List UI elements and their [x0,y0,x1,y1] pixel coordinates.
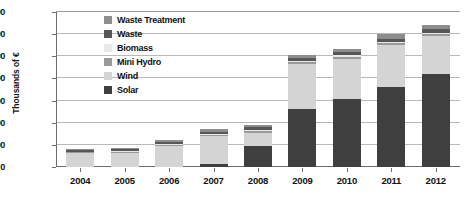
x-axis-tick-mark [436,168,437,172]
x-axis-tick: 2004 [66,169,94,193]
legend-item[interactable]: Biomass [104,42,185,54]
x-axis-tick-label: 2010 [333,175,361,186]
legend-swatch-icon [104,72,112,80]
bar-segment [422,74,450,167]
y-axis-tick-mark [52,167,56,168]
bar-segment [288,109,316,167]
bar-segment [200,164,228,167]
legend-swatch-icon [104,30,112,38]
y-axis-tick-mark [52,34,56,35]
bar-segment [422,36,450,74]
legend-item[interactable]: Solar [104,84,185,96]
legend-swatch-icon [104,86,112,94]
legend-item[interactable]: Waste Treatment [104,14,185,26]
chart-legend: Waste TreatmentWasteBiomassMini HydroWin… [104,14,185,96]
x-axis-tick: 2007 [200,169,228,193]
y-axis-tick-label: 2000000 [0,118,5,128]
bar-segment [333,59,361,100]
x-axis-tick-mark [302,168,303,172]
x-axis-tick: 2005 [111,169,139,193]
y-axis-tick-mark [52,101,56,102]
y-axis-tick-label: 4000000 [0,73,5,83]
bar-segment [377,45,405,87]
x-axis-tick-labels: 200420052006200720082009201020112012 [56,169,460,193]
bar-segment [111,153,139,167]
legend-item-label: Waste [117,30,142,39]
bar-column [200,12,228,167]
bar-segment [155,146,183,167]
bar-column [422,12,450,167]
x-axis-tick-mark [258,168,259,172]
x-axis-tick-label: 2006 [155,175,183,186]
legend-item-label: Mini Hydro [117,58,161,67]
y-axis-tick-mark [52,145,56,146]
legend-item-label: Biomass [117,44,153,53]
bar-segment [244,133,272,146]
y-axis-title: Thousands of € [11,23,21,143]
y-axis-tick-mark [52,123,56,124]
x-axis-tick-label: 2007 [200,175,228,186]
x-axis-tick-label: 2005 [111,175,139,186]
legend-swatch-icon [104,58,112,66]
y-axis-tick-label: 3000000 [0,96,5,106]
bar-segment [200,136,228,164]
bar-segment [333,99,361,167]
x-axis-tick-label: 2012 [422,175,450,186]
x-axis-tick: 2006 [155,169,183,193]
y-axis-tick-label: 5000000 [0,51,5,61]
x-axis-tick-label: 2009 [288,175,316,186]
x-axis-tick-mark [347,168,348,172]
y-axis-tick-label: 0 [0,162,5,172]
legend-item-label: Wind [117,72,138,81]
y-axis-tick-label: 6000000 [0,29,5,39]
x-axis-tick-mark [391,168,392,172]
y-axis-tick-label: 7000000 [0,7,5,17]
x-axis-tick: 2009 [288,169,316,193]
x-axis-tick: 2010 [333,169,361,193]
y-axis-tick-mark [52,12,56,13]
bar-column [377,12,405,167]
bar-segment [66,153,94,167]
legend-swatch-icon [104,44,112,52]
legend-swatch-icon [104,16,112,24]
legend-item[interactable]: Waste [104,28,185,40]
y-axis-tick-label: 1000000 [0,140,5,150]
x-axis-tick-label: 2008 [244,175,272,186]
x-axis-tick-mark [214,168,215,172]
bar-column [288,12,316,167]
bar-column [66,12,94,167]
legend-item-label: Waste Treatment [117,16,185,25]
x-axis-tick-label: 2011 [377,175,405,186]
legend-item-label: Solar [117,86,138,95]
x-axis-tick: 2011 [377,169,405,193]
x-axis-tick-mark [169,168,170,172]
stacked-bar-chart: Thousands of € 0100000020000003000000400… [0,0,471,199]
bar-column [333,12,361,167]
x-axis-tick: 2008 [244,169,272,193]
bar-segment [377,87,405,167]
x-axis-tick-mark [80,168,81,172]
legend-item[interactable]: Wind [104,70,185,82]
bar-segment [288,64,316,109]
x-axis-tick-mark [125,168,126,172]
legend-item[interactable]: Mini Hydro [104,56,185,68]
x-axis-tick: 2012 [422,169,450,193]
y-axis-tick-mark [52,56,56,57]
y-axis-tick-mark [52,78,56,79]
bar-segment [244,146,272,167]
bar-column [244,12,272,167]
x-axis-tick-label: 2004 [66,175,94,186]
